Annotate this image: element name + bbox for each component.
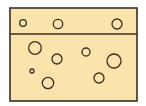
bubble-diagram — [0, 0, 146, 106]
